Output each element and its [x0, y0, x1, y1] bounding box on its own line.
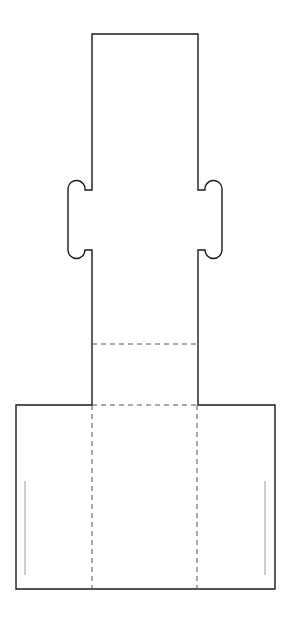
inner-guides — [25, 481, 265, 575]
dieline-diagram — [0, 0, 290, 619]
cut-outline — [16, 34, 275, 589]
fold-lines — [92, 344, 198, 589]
